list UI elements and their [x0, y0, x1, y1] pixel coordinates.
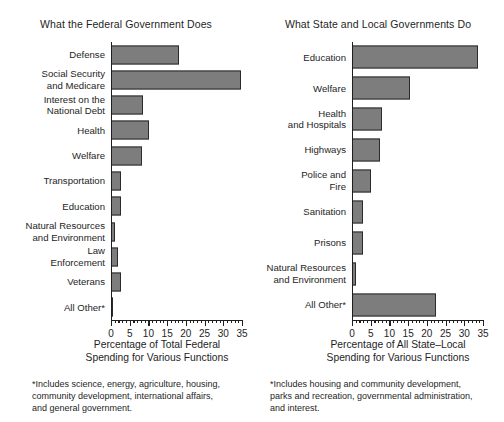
- chart-panel-federal: What the Federal Government Does Defense…: [0, 0, 252, 422]
- x-tick-major: [408, 320, 409, 326]
- category-label: Defense: [0, 49, 111, 61]
- category-label: Police and Fire: [252, 169, 352, 192]
- bar-track: [111, 219, 252, 244]
- x-tick-minor: [461, 320, 462, 323]
- bar-row: All Other*: [0, 295, 252, 320]
- x-tick-minor: [235, 320, 236, 323]
- bar: [111, 273, 121, 292]
- x-tick-major: [205, 320, 206, 326]
- bar-row: Social Security and Medicare: [0, 67, 252, 92]
- category-label: Interest on the National Debt: [0, 94, 111, 117]
- x-tick-minor: [453, 320, 454, 323]
- bar-track: [111, 168, 252, 193]
- footnote-state-local: *Includes housing and community developm…: [270, 378, 495, 414]
- x-tick-minor: [115, 320, 116, 323]
- bar-track: [352, 227, 504, 258]
- bar: [352, 77, 410, 100]
- x-tick-minor: [386, 320, 387, 323]
- bar-row: Education: [252, 42, 504, 73]
- x-tick-minor: [378, 320, 379, 323]
- x-tick-minor: [208, 320, 209, 323]
- bar: [352, 46, 478, 69]
- bar-track: [352, 289, 504, 320]
- x-tick-minor: [397, 320, 398, 323]
- bar-row: Health and Hospitals: [252, 104, 504, 135]
- bar: [111, 45, 179, 64]
- footnote-federal: *Includes science, energy, agriculture, …: [32, 378, 257, 414]
- x-tick-minor: [238, 320, 239, 323]
- x-tick-minor: [442, 320, 443, 323]
- x-tick-minor: [401, 320, 402, 323]
- x-tick-minor: [220, 320, 221, 323]
- bar: [352, 139, 380, 162]
- x-tick-major: [186, 320, 187, 326]
- bar: [352, 231, 363, 254]
- x-tick-minor: [367, 320, 368, 323]
- x-tick-minor: [141, 320, 142, 323]
- x-tick-minor: [160, 320, 161, 323]
- category-label: Prisons: [252, 237, 352, 249]
- category-label: Health and Hospitals: [252, 108, 352, 131]
- bar-row: Education: [0, 194, 252, 219]
- x-tick-minor: [363, 320, 364, 323]
- x-tick-minor: [393, 320, 394, 323]
- bar-rows-state-local: EducationWelfareHealth and HospitalsHigh…: [252, 42, 504, 320]
- bar-row: Law Enforcement: [0, 244, 252, 269]
- x-tick-minor: [137, 320, 138, 323]
- x-tick-major: [371, 320, 372, 326]
- bar-track: [111, 143, 252, 168]
- bar-track: [111, 118, 252, 143]
- bar-track: [352, 42, 504, 73]
- x-tick-minor: [438, 320, 439, 323]
- bar-row: Welfare: [0, 143, 252, 168]
- bar: [111, 146, 142, 165]
- x-axis-title-federal: Percentage of Total Federal Spending for…: [0, 338, 283, 364]
- x-tick-minor: [479, 320, 480, 323]
- x-tick-major: [223, 320, 224, 326]
- category-label: Transportation: [0, 175, 111, 187]
- bar: [111, 121, 149, 140]
- x-axis-title-state-local: Percentage of All State–Local Spending f…: [252, 338, 504, 364]
- bar-row: Transportation: [0, 168, 252, 193]
- plot-area-state-local: EducationWelfareHealth and HospitalsHigh…: [252, 42, 504, 320]
- x-tick-minor: [201, 320, 202, 323]
- x-tick-minor: [412, 320, 413, 323]
- category-label: Highways: [252, 144, 352, 156]
- x-tick-minor: [419, 320, 420, 323]
- bar-track: [111, 93, 252, 118]
- x-tick-minor: [416, 320, 417, 323]
- bar-track: [111, 42, 252, 67]
- x-tick-minor: [431, 320, 432, 323]
- bar: [111, 171, 121, 190]
- category-label: Education: [252, 52, 352, 64]
- x-tick-major: [130, 320, 131, 326]
- chart-title-federal: What the Federal Government Does: [0, 18, 252, 30]
- x-tick-minor: [133, 320, 134, 323]
- x-tick-minor: [190, 320, 191, 323]
- x-tick-minor: [423, 320, 424, 323]
- chart-panel-state-local: What State and Local Governments Do Educ…: [252, 0, 504, 422]
- bar: [111, 70, 241, 89]
- bar-row: Natural Resources and Environment: [0, 219, 252, 244]
- bar-row: Health: [0, 118, 252, 143]
- x-tick-minor: [182, 320, 183, 323]
- x-tick-minor: [472, 320, 473, 323]
- category-label: Health: [0, 125, 111, 137]
- x-tick-minor: [197, 320, 198, 323]
- x-tick-major: [483, 320, 484, 326]
- category-label: Education: [0, 201, 111, 213]
- x-tick-minor: [468, 320, 469, 323]
- x-tick-minor: [359, 320, 360, 323]
- bar-track: [352, 166, 504, 197]
- x-tick-minor: [457, 320, 458, 323]
- x-tick-minor: [227, 320, 228, 323]
- category-label: Welfare: [252, 83, 352, 95]
- bar-track: [352, 104, 504, 135]
- x-tick-minor: [178, 320, 179, 323]
- bar-track: [352, 258, 504, 289]
- bar-row: Sanitation: [252, 196, 504, 227]
- category-label: Social Security and Medicare: [0, 68, 111, 91]
- bar-track: [111, 67, 252, 92]
- bar-track: [352, 135, 504, 166]
- category-label: Welfare: [0, 150, 111, 162]
